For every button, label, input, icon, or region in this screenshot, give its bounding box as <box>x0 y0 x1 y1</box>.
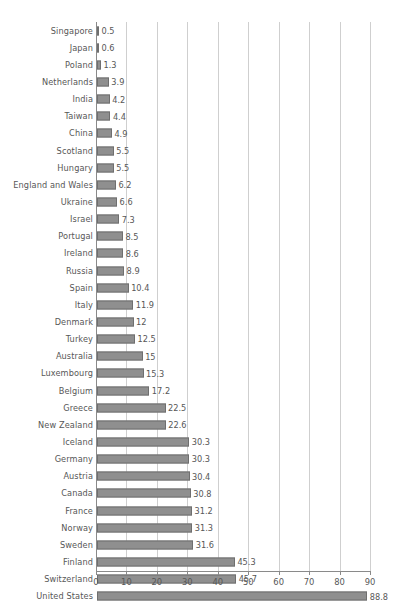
bar-value-label: 11.9 <box>136 301 154 309</box>
bar-value-label: 4.9 <box>114 129 127 137</box>
bar-row: Turkey12.5 <box>0 331 401 348</box>
bar-and-value: 88.8 <box>97 592 388 601</box>
bar-value-label: 12 <box>136 318 146 326</box>
x-tick-label: 0 <box>93 578 98 586</box>
x-tick-label: 70 <box>304 578 315 586</box>
bar-row: Spain10.4 <box>0 279 401 296</box>
bar-and-value: 0.5 <box>97 26 115 35</box>
bar-and-value: 31.2 <box>97 506 213 515</box>
bar-value-label: 6.6 <box>120 198 133 206</box>
category-label: Ireland <box>64 249 93 257</box>
bar-row: Poland1.3 <box>0 56 401 73</box>
x-tick-label: 60 <box>273 578 284 586</box>
category-label: Portugal <box>58 232 93 240</box>
category-label: Scotland <box>57 146 93 154</box>
bar <box>97 77 109 86</box>
bar-row: Austria30.4 <box>0 468 401 485</box>
bar-and-value: 6.6 <box>97 197 133 206</box>
bar-and-value: 10.4 <box>97 283 149 292</box>
x-tick-0 <box>96 571 97 575</box>
bar-and-value: 30.4 <box>97 472 210 481</box>
bar-value-label: 31.2 <box>194 506 212 514</box>
bar <box>97 60 101 69</box>
category-label: Spain <box>70 284 93 292</box>
bar-and-value: 30.8 <box>97 489 212 498</box>
bar <box>97 403 166 412</box>
bar <box>97 420 166 429</box>
bar-and-value: 4.2 <box>97 95 125 104</box>
category-label: Finland <box>63 558 93 566</box>
bar <box>97 163 114 172</box>
x-tick-40 <box>218 571 219 575</box>
bar-and-value: 15 <box>97 352 156 361</box>
bar-value-label: 30.8 <box>193 489 211 497</box>
bar <box>97 352 143 361</box>
bar-row: Denmark12 <box>0 313 401 330</box>
bar <box>97 489 191 498</box>
bar-value-label: 12.5 <box>138 335 156 343</box>
x-tick-60 <box>279 571 280 575</box>
bar-and-value: 11.9 <box>97 300 154 309</box>
bar-and-value: 8.5 <box>97 232 138 241</box>
bar-value-label: 0.6 <box>102 44 115 52</box>
bar-and-value: 4.9 <box>97 129 127 138</box>
bar-value-label: 45.3 <box>237 558 255 566</box>
bar-row: Russia8.9 <box>0 262 401 279</box>
x-tick-label: 10 <box>121 578 132 586</box>
bar <box>97 129 112 138</box>
bar-row: United States88.8 <box>0 588 401 605</box>
bar <box>97 197 117 206</box>
category-label: Greece <box>63 404 93 412</box>
bar <box>97 43 99 52</box>
x-axis: 0102030405060708090 <box>96 571 371 572</box>
bar-and-value: 22.5 <box>97 403 186 412</box>
bar-value-label: 15 <box>145 352 155 360</box>
category-label: Netherlands <box>42 78 93 86</box>
bar-value-label: 15.3 <box>146 369 164 377</box>
bar-value-label: 30.3 <box>192 438 210 446</box>
x-tick-30 <box>187 571 188 575</box>
bar <box>97 437 189 446</box>
bar-value-label: 17.2 <box>152 386 170 394</box>
bar-and-value: 12.5 <box>97 335 156 344</box>
bar-and-value: 5.5 <box>97 163 129 172</box>
x-tick-50 <box>248 571 249 575</box>
x-tick-70 <box>309 571 310 575</box>
bar-row: Sweden31.6 <box>0 536 401 553</box>
bar <box>97 386 149 395</box>
bar-row: Belgium17.2 <box>0 382 401 399</box>
bar-value-label: 31.3 <box>195 524 213 532</box>
category-label: Switzerland <box>44 575 93 583</box>
category-label: Germany <box>55 455 93 463</box>
category-label: Singapore <box>51 26 93 34</box>
bar <box>97 283 129 292</box>
bar-row: Greece22.5 <box>0 399 401 416</box>
bar <box>97 266 124 275</box>
category-label: Russia <box>66 266 93 274</box>
bar-value-label: 8.5 <box>125 232 138 240</box>
bar-row: India4.2 <box>0 91 401 108</box>
bar-row: Canada30.8 <box>0 485 401 502</box>
category-label: Canada <box>61 489 93 497</box>
x-tick-90 <box>370 571 371 575</box>
bar-and-value: 5.5 <box>97 146 129 155</box>
bar-row: Hungary5.5 <box>0 159 401 176</box>
bar <box>97 249 123 258</box>
bar-and-value: 30.3 <box>97 437 210 446</box>
bar-and-value: 30.3 <box>97 455 210 464</box>
bar <box>97 180 116 189</box>
bar-and-value: 6.2 <box>97 180 131 189</box>
bar-and-value: 1.3 <box>97 60 116 69</box>
bar-row: Germany30.3 <box>0 451 401 468</box>
category-label: Luxembourg <box>41 369 93 377</box>
category-label: Austria <box>63 472 93 480</box>
category-label: China <box>69 129 93 137</box>
bar <box>97 540 193 549</box>
bar-value-label: 88.8 <box>370 592 388 600</box>
bar-value-label: 8.9 <box>127 266 140 274</box>
bar-row: Israel7.3 <box>0 211 401 228</box>
bar <box>97 557 235 566</box>
bar-row: Ireland8.6 <box>0 245 401 262</box>
bar <box>97 232 123 241</box>
